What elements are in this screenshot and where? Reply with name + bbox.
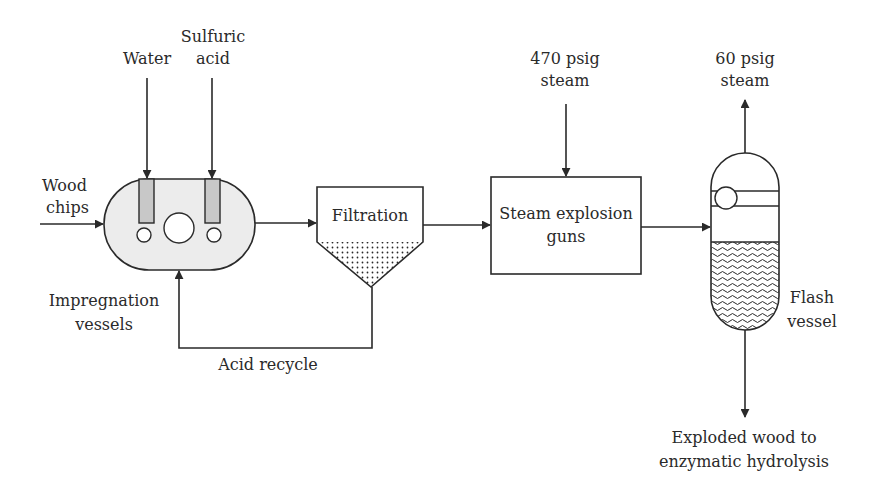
flash-vessel-inlet-circle — [715, 187, 737, 209]
wood-chips-label-1: Wood — [42, 176, 87, 195]
steam-60-label-1: 60 psig — [715, 49, 774, 68]
steam-explosion-guns-box — [491, 177, 641, 274]
impregnation-label-2: vessels — [74, 315, 133, 334]
flash-vessel-label-1: Flash — [790, 288, 834, 307]
water-label: Water — [123, 49, 171, 68]
steam-470-label-1: 470 psig — [530, 49, 599, 68]
filtration-label: Filtration — [332, 206, 408, 225]
process-flow-diagram: Water Sulfuric acid Wood chips Impregnat… — [0, 0, 878, 495]
small-nozzle-left — [137, 228, 151, 242]
product-label-2: enzymatic hydrolysis — [659, 452, 829, 471]
wood-chips-label-2: chips — [46, 198, 89, 217]
sulfuric-acid-label-1: Sulfuric — [181, 27, 245, 46]
steam-60-label-2: steam — [721, 71, 770, 90]
flash-vessel — [711, 153, 779, 332]
steam-guns-label-1: Steam explosion — [499, 204, 632, 223]
acid-recycle-label: Acid recycle — [217, 355, 318, 374]
steam-470-label-2: steam — [541, 71, 590, 90]
water-dip-tube — [139, 179, 154, 223]
acid-recycle-line — [179, 271, 372, 348]
acid-dip-tube — [205, 179, 220, 223]
product-label-1: Exploded wood to — [671, 428, 816, 447]
impregnation-label-1: Impregnation — [49, 291, 159, 310]
sulfuric-acid-label-2: acid — [196, 49, 230, 68]
steam-guns-label-2: guns — [546, 227, 585, 246]
agitator-circle — [164, 213, 194, 243]
small-nozzle-right — [207, 228, 221, 242]
flash-vessel-label-2: vessel — [786, 312, 837, 331]
filtration-unit — [317, 187, 423, 287]
impregnation-vessel — [104, 179, 255, 270]
